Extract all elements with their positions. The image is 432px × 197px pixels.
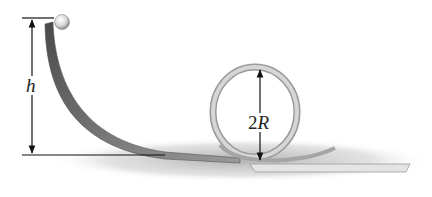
diameter-label: 2R xyxy=(247,113,270,132)
diameter-label-prefix: 2 xyxy=(248,112,258,133)
height-label: h xyxy=(25,76,37,95)
diameter-label-var: R xyxy=(258,112,270,133)
ball xyxy=(55,15,70,30)
loop-the-loop-diagram xyxy=(0,0,432,197)
exit-track xyxy=(250,164,410,172)
